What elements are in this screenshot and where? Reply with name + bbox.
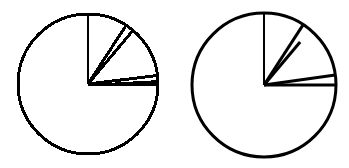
pie-chart-smooth bbox=[192, 13, 336, 157]
pie-chart-pixelated bbox=[18, 14, 158, 154]
pie-charts-comparison bbox=[0, 0, 349, 168]
figure bbox=[0, 0, 349, 168]
